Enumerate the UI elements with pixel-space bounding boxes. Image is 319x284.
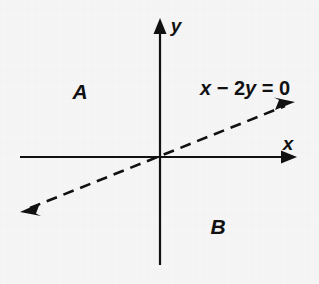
locus-arrowhead-left	[20, 203, 41, 216]
equation-term-x: x	[199, 77, 212, 99]
coordinate-plane-figure: x y A B x − 2y = 0	[0, 0, 319, 284]
locus-equation-label: x − 2y = 0	[199, 77, 290, 99]
figure-canvas: x y A B x − 2y = 0	[0, 0, 319, 284]
equation-term-zero: 0	[279, 77, 290, 99]
equation-term-y: y	[244, 77, 257, 99]
equation-term-two: 2	[234, 77, 245, 99]
region-label-a: A	[71, 80, 87, 103]
equation-term-minus: −	[217, 77, 229, 99]
y-axis-arrowhead	[154, 18, 167, 34]
y-axis-label: y	[170, 15, 183, 36]
x-axis-label: x	[282, 133, 295, 154]
locus-arrowhead-right	[274, 98, 295, 111]
region-label-b: B	[210, 215, 225, 238]
equation-term-equals: =	[262, 77, 274, 99]
